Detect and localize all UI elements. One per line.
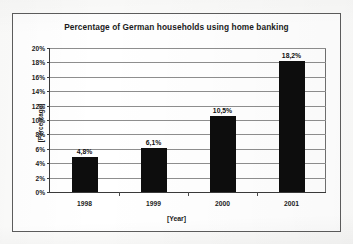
y-axis-label: 2% <box>35 174 45 181</box>
y-axis-label: 20% <box>32 45 45 52</box>
plot-area: 20%18%16%14%12%10%8%6%4%2%0% 4,8%6,1%10,… <box>49 48 326 193</box>
x-axis-label-1998: 1998 <box>77 200 92 207</box>
chart-frame: Percentage of German households using ho… <box>12 13 341 232</box>
bar-1998 <box>72 157 98 192</box>
bar-value-label-2001: 18,2% <box>282 52 301 59</box>
bar-value-label-1998: 4,8% <box>77 148 93 155</box>
scanned-page-canvas: Percentage of German households using ho… <box>0 0 353 244</box>
y-axis-label: 0% <box>35 189 45 196</box>
y-axis-label: 6% <box>35 145 45 152</box>
bar-value-label-2000: 10,5% <box>213 107 232 114</box>
y-axis-label: 16% <box>32 73 45 80</box>
y-axis-label: 12% <box>32 102 45 109</box>
bar-group-2000: 10,5% <box>188 48 257 192</box>
bar-group-1999: 6,1% <box>119 48 188 192</box>
y-axis-label: 8% <box>35 131 45 138</box>
y-axis-label: 4% <box>35 160 45 167</box>
bar-2000 <box>210 116 236 192</box>
x-tick-mark <box>257 192 258 196</box>
x-tick-mark <box>119 192 120 196</box>
y-axis-label: 18% <box>32 59 45 66</box>
x-tick-mark <box>188 192 189 196</box>
x-axis-label-1999: 1999 <box>146 200 161 207</box>
bar-2001 <box>279 61 305 192</box>
bar-1999 <box>141 148 167 192</box>
x-axis-label-2000: 2000 <box>215 200 230 207</box>
bar-group-2001: 18,2% <box>257 48 326 192</box>
y-axis-label: 10% <box>32 117 45 124</box>
chart-title: Percentage of German households using ho… <box>13 22 340 32</box>
x-axis-title: [Year] <box>13 215 340 222</box>
bar-value-label-1999: 6,1% <box>146 139 162 146</box>
x-axis-label-2001: 2001 <box>284 200 299 207</box>
y-tick-mark <box>47 192 50 193</box>
bar-group-1998: 4,8% <box>50 48 119 192</box>
y-axis-label: 14% <box>32 88 45 95</box>
